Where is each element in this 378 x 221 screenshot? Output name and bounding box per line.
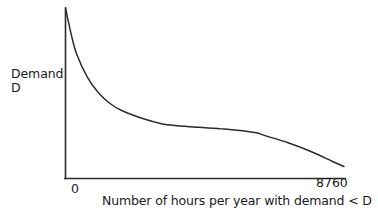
load-duration-curve xyxy=(66,8,345,167)
y-axis-label-line2: D xyxy=(11,81,63,95)
x-axis-tick-min: 0 xyxy=(71,182,79,196)
y-axis-label-line1: Demand xyxy=(11,66,63,81)
chart-figure: Demand D 0 8760 Number of hours per year… xyxy=(0,0,378,221)
x-axis-tick-max: 8760 xyxy=(316,176,348,190)
x-axis-label: Number of hours per year with demand < D xyxy=(102,194,372,208)
y-axis-label: Demand D xyxy=(11,67,63,95)
